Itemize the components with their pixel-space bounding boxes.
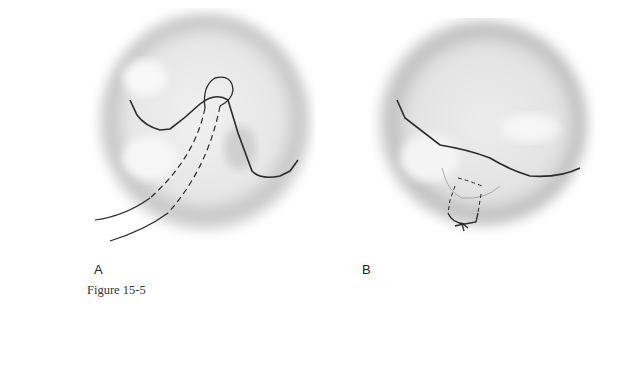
panel-a-illustration bbox=[90, 8, 315, 248]
valve-a-drawing bbox=[90, 8, 315, 248]
valve-b-drawing bbox=[370, 18, 595, 243]
valve-annulus bbox=[99, 13, 311, 233]
panel-label-a: A bbox=[94, 262, 103, 277]
figure-caption: Figure 15-5 bbox=[87, 283, 146, 298]
panel-b-illustration bbox=[370, 18, 595, 243]
panel-label-b: B bbox=[362, 262, 371, 277]
